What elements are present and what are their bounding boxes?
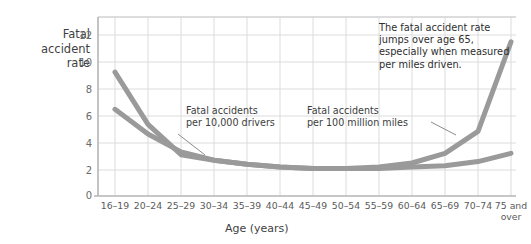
callout-text: The fatal accident rate jumps over age 6…: [379, 22, 511, 71]
annotation-miles-line2: per 100 million miles: [307, 117, 427, 129]
x-axis-title: Age (years): [225, 222, 289, 235]
x-tick-75-and-over: 75 andover: [491, 200, 531, 222]
annotation-drivers-line1: Fatal accidents: [186, 105, 286, 117]
annotation-per-100-million-miles: Fatal accidents per 100 million miles: [307, 105, 427, 128]
annotation-per-10000-drivers: Fatal accidents per 10,000 drivers: [186, 105, 286, 128]
annotation-miles-line1: Fatal accidents: [307, 105, 427, 117]
annotation-drivers-line2: per 10,000 drivers: [186, 117, 286, 129]
